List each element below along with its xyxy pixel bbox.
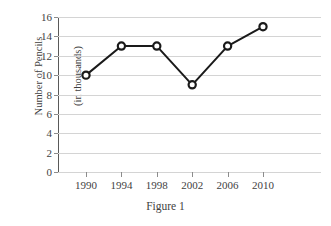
x-tick-mark-2002 (192, 172, 193, 177)
y-tick-label-10: 10 (41, 70, 52, 81)
plot-area: 0246810121416 199019941998200220062010 (58, 17, 321, 172)
y-tick-label-8: 8 (47, 89, 53, 100)
data-point-1998 (153, 42, 160, 49)
y-tick-label-16: 16 (41, 12, 52, 23)
y-tick-mark-0 (54, 172, 58, 173)
x-tick-label-2006: 2006 (217, 179, 239, 191)
data-point-2006 (224, 42, 231, 49)
data-point-2010 (259, 23, 266, 30)
x-tick-label-2002: 2002 (181, 179, 203, 191)
data-point-2002 (189, 81, 196, 88)
x-tick-label-2010: 2010 (252, 179, 274, 191)
x-tick-label-1994: 1994 (110, 179, 132, 191)
y-tick-label-0: 0 (47, 167, 53, 178)
x-tick-mark-2006 (228, 172, 229, 177)
y-tick-label-12: 12 (41, 50, 52, 61)
x-tick-label-1998: 1998 (146, 179, 168, 191)
y-tick-label-4: 4 (47, 128, 53, 139)
data-point-1994 (118, 42, 125, 49)
figure-caption: Figure 1 (0, 200, 331, 212)
x-tick-mark-1990 (86, 172, 87, 177)
data-series-line (58, 17, 321, 172)
y-tick-label-2: 2 (47, 147, 53, 158)
x-tick-label-1990: 1990 (75, 179, 97, 191)
y-tick-label-6: 6 (47, 108, 53, 119)
x-tick-mark-1994 (121, 172, 122, 177)
x-tick-mark-1998 (157, 172, 158, 177)
x-tick-mark-2010 (263, 172, 264, 177)
series-polyline (86, 27, 263, 85)
gridline-y-0 (58, 172, 321, 173)
y-axis-title: Number of Pencils (in thousands) (6, 0, 38, 156)
figure-container: Number of Pencils (in thousands) 0246810… (0, 0, 331, 226)
data-point-1990 (82, 72, 89, 79)
y-tick-label-14: 14 (41, 31, 52, 42)
